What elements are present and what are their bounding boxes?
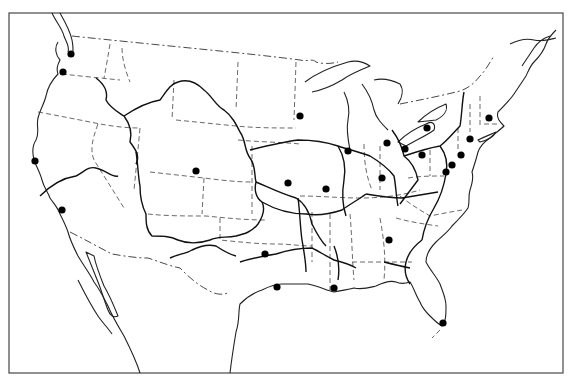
city-dot-new-york: [466, 135, 473, 142]
city-dot-portland: [59, 68, 66, 75]
city-dot-minneapolis: [296, 112, 303, 119]
city-dot-st-louis: [322, 185, 329, 192]
city-dot-detroit: [383, 139, 390, 146]
city-dot-miami: [439, 319, 446, 326]
city-dot-seattle: [67, 50, 74, 57]
city-dot-philadelphia: [457, 151, 464, 158]
city-dot-san-francisco: [31, 157, 38, 164]
city-dot-baltimore: [448, 161, 455, 168]
city-dot-chicago: [344, 147, 351, 154]
city-dot-pittsburgh: [418, 151, 425, 158]
city-dot-dallas: [261, 250, 268, 257]
map-frame: [9, 13, 563, 373]
city-dot-new-orleans: [330, 284, 337, 291]
city-dot-washington: [442, 168, 449, 175]
city-dot-cleveland: [401, 145, 408, 152]
city-dot-houston: [273, 283, 280, 290]
city-dot-buffalo: [423, 124, 430, 131]
city-dot-los-angeles: [58, 206, 65, 213]
city-dot-atlanta: [385, 236, 392, 243]
city-dot-kansas-city: [284, 179, 291, 186]
us-outline-map: [0, 0, 573, 383]
city-dot-denver: [192, 167, 199, 174]
city-dot-cincinnati: [378, 174, 385, 181]
city-dot-boston: [485, 114, 492, 121]
